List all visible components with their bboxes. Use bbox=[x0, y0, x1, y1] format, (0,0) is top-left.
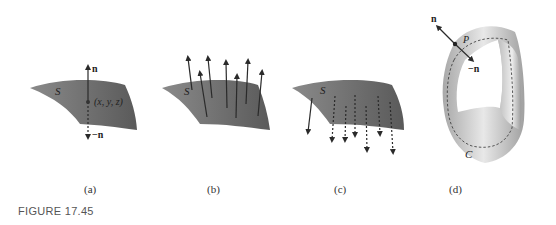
point-marker bbox=[86, 100, 90, 104]
surface-s bbox=[162, 80, 270, 130]
panel-b-upward-normals: S bbox=[140, 40, 280, 160]
neg-normal-label: −n bbox=[92, 129, 104, 140]
point-label: (x, y, z) bbox=[94, 96, 124, 108]
caption-d: (d) bbox=[449, 183, 462, 195]
neg-normal-label: −n bbox=[468, 63, 480, 74]
surface-label: S bbox=[320, 84, 326, 96]
normal-arrow bbox=[438, 27, 455, 44]
caption-a: (a) bbox=[84, 183, 96, 195]
figure-label: FIGURE 17.45 bbox=[18, 205, 94, 217]
panel-c-downward-normals: S bbox=[280, 40, 420, 160]
panel-a-surface-with-normal: S (x, y, z) n −n bbox=[0, 40, 140, 160]
normal-label: n bbox=[431, 13, 437, 24]
caption-c: (c) bbox=[334, 183, 346, 195]
point-p-label: P bbox=[462, 34, 469, 45]
point-p-marker bbox=[453, 42, 457, 46]
curve-c-label: C bbox=[465, 148, 473, 160]
surface-label: S bbox=[55, 85, 61, 97]
caption-b: (b) bbox=[207, 183, 220, 195]
panel-d-mobius-strip: n −n P C bbox=[410, 0, 556, 180]
normal-label: n bbox=[92, 63, 98, 74]
surface-label: S bbox=[184, 85, 190, 97]
